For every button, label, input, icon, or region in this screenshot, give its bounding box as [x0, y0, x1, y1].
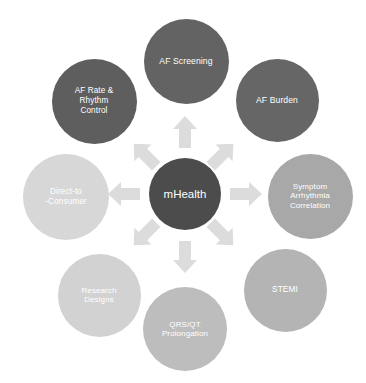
node-symptom-arrhythmia-correlation[interactable]: Symptom Arrhythmia Correlation [268, 154, 353, 239]
hub-node-mhealth[interactable]: mHealth [149, 158, 221, 230]
node-label: Research Designs [75, 286, 122, 305]
node-label: AF Screening [153, 56, 218, 66]
diagram-canvas: AF ScreeningAF BurdenSymptom Arrhythmia … [0, 0, 366, 383]
node-af-rate-rhythm-control[interactable]: AF Rate & Rhythm Control [52, 59, 137, 144]
node-af-screening[interactable]: AF Screening [144, 19, 229, 104]
node-label: AF Burden [250, 95, 304, 105]
node-direct-to-consumer[interactable]: Direct-to -Consumer [23, 154, 109, 240]
arrow-up-icon [172, 115, 198, 149]
node-stemi[interactable]: STEMI [244, 249, 327, 332]
node-research-designs[interactable]: Research Designs [58, 254, 141, 337]
hub-label: mHealth [164, 188, 207, 200]
node-label: Direct-to -Consumer [39, 187, 92, 206]
node-label: AF Rate & Rhythm Control [69, 86, 120, 115]
node-af-burden[interactable]: AF Burden [236, 59, 319, 142]
arrow-down-icon [172, 240, 198, 274]
node-label: QRS/QT Prolongation [156, 320, 214, 339]
node-label: Symptom Arrhythmia Correlation [284, 182, 336, 210]
node-label: STEMI [266, 285, 304, 295]
arrow-left-icon [107, 181, 141, 207]
node-qrs-qt-prolongation[interactable]: QRS/QT Prolongation [143, 287, 227, 371]
arrow-right-icon [229, 181, 263, 207]
